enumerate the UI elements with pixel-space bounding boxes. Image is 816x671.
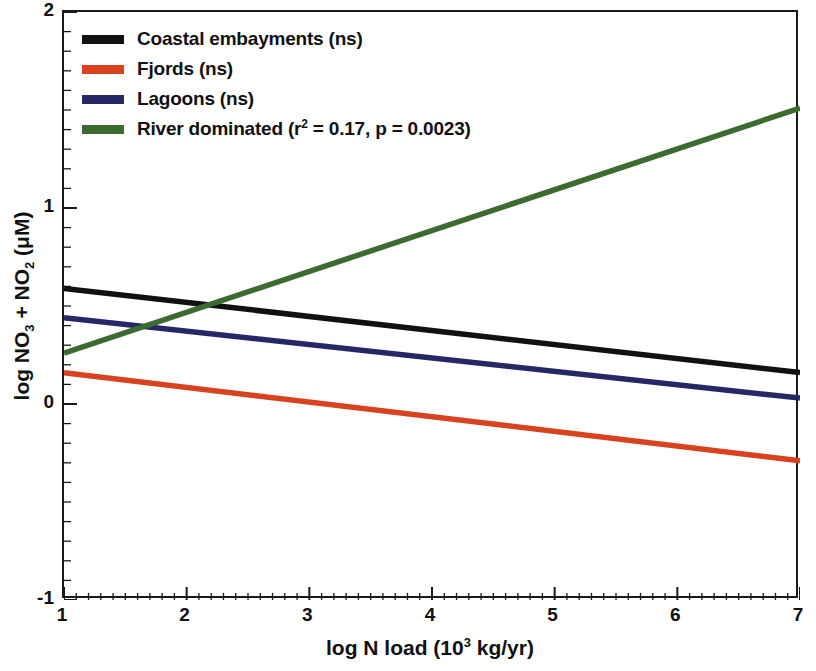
y-tick-label-group: -1012: [0, 0, 54, 671]
x-tick-label: 3: [287, 604, 327, 626]
legend-swatch-icon: [82, 35, 124, 44]
y-tick-label: 2: [2, 0, 54, 21]
legend-item-label: River dominated (r2 = 0.17, p = 0.0023): [137, 118, 471, 140]
legend-swatch-icon: [82, 125, 124, 134]
y-tick-label: 1: [2, 195, 54, 217]
legend-item: River dominated (r2 = 0.17, p = 0.0023): [82, 114, 542, 144]
legend-item-label: Coastal embayments (ns): [137, 28, 363, 50]
legend-label-stats: = 0.17, p = 0.0023): [308, 118, 471, 139]
x-tick-label: 7: [778, 604, 816, 626]
x-axis-title-part2: kg/yr): [471, 636, 534, 659]
legend-swatch-icon: [82, 95, 124, 104]
legend-item-label: Lagoons (ns): [137, 88, 254, 110]
x-tick-label: 6: [655, 604, 695, 626]
x-tick-label: 2: [165, 604, 205, 626]
legend-item: Coastal embayments (ns): [82, 24, 542, 54]
legend-swatch-icon: [82, 65, 124, 74]
plot-area: Coastal embayments (ns)Fjords (ns)Lagoon…: [62, 10, 798, 598]
x-tick-label: 4: [410, 604, 450, 626]
legend-item: Lagoons (ns): [82, 84, 542, 114]
legend-item: Fjords (ns): [82, 54, 542, 84]
series-line-3: [64, 108, 800, 353]
x-tick-label: 5: [533, 604, 573, 626]
legend: Coastal embayments (ns)Fjords (ns)Lagoon…: [82, 24, 542, 144]
x-tick-label: 1: [42, 604, 82, 626]
legend-item-label: Fjords (ns): [137, 58, 233, 80]
y-tick-label: 0: [2, 391, 54, 413]
legend-label-text: River dominated (r: [137, 118, 301, 139]
x-axis-title-sup1: 3: [464, 635, 471, 650]
x-axis-title-part1: log N load (10: [326, 636, 464, 659]
chart-figure: log NO3 + NO2 (μM) -1012 1234567 log N l…: [0, 0, 816, 671]
x-axis-title: log N load (103 kg/yr): [62, 636, 798, 660]
